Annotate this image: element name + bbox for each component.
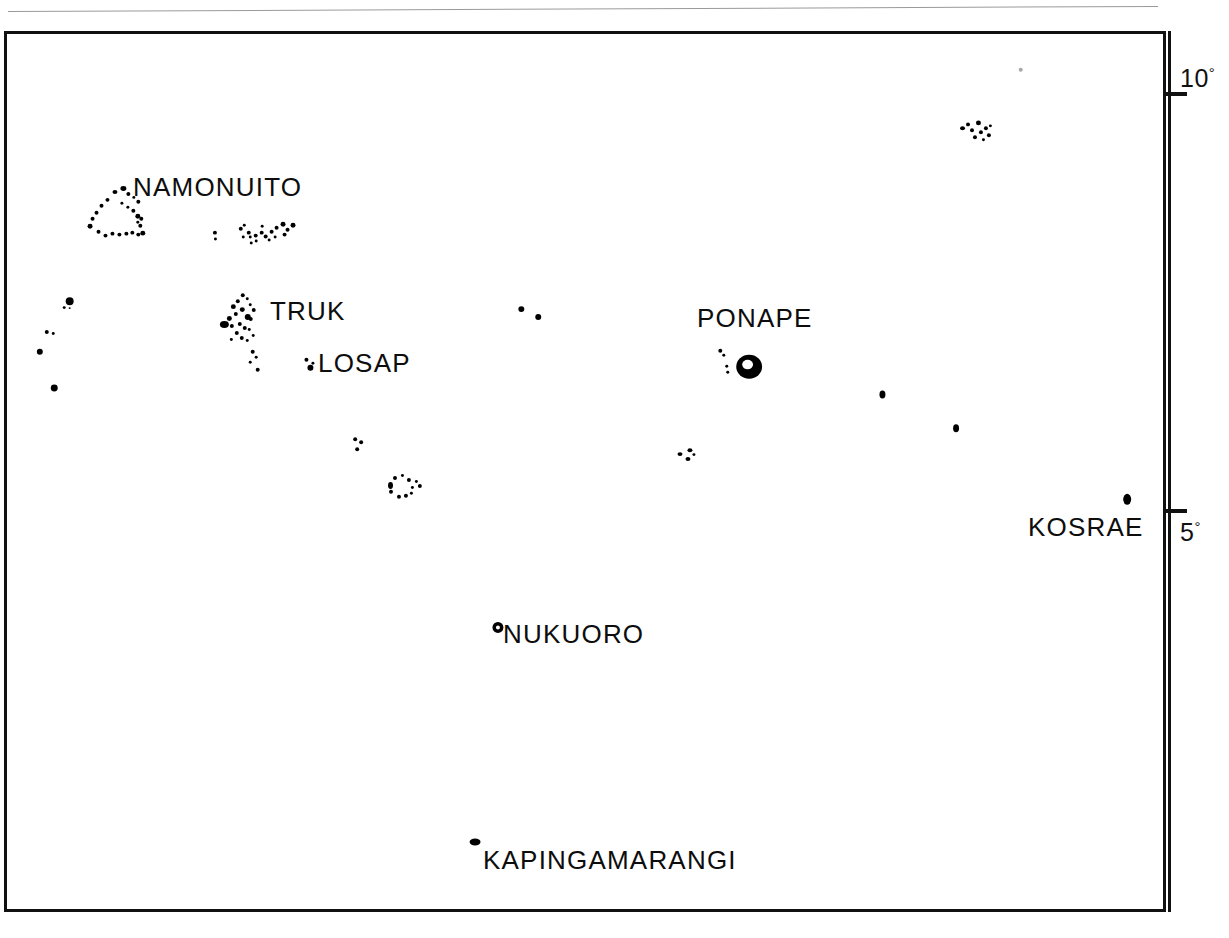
island-dot — [243, 224, 246, 227]
island-dot — [234, 312, 238, 316]
island-dot — [535, 314, 541, 320]
island-west-outlier-c — [37, 349, 43, 355]
island-dot — [982, 138, 985, 141]
island-pakin-ant-group — [960, 120, 992, 141]
island-dot — [110, 232, 114, 236]
island-dot — [248, 328, 251, 331]
island-dot — [960, 126, 965, 130]
degree-symbol-icon: ° — [1209, 64, 1216, 81]
island-dot — [69, 307, 71, 309]
island-plot-layer — [7, 34, 1163, 909]
island-dot — [987, 133, 991, 137]
island-dot — [281, 222, 286, 227]
island-label-ponape: PONAPE — [697, 303, 813, 334]
island-dot — [953, 424, 959, 432]
island-dot — [88, 224, 93, 229]
island-dot — [304, 358, 308, 362]
map-page: 10° 5° NAMONUITO TRUK LOSAP PONAPE KOSRA… — [0, 0, 1229, 938]
island-dot — [725, 365, 728, 368]
island-dot — [270, 230, 274, 234]
island-dot — [124, 232, 128, 236]
island-ponape-island — [718, 349, 762, 379]
island-dot — [63, 306, 66, 309]
island-dot — [255, 240, 258, 243]
island-etal-atoll — [353, 437, 363, 451]
island-satawan-atoll — [388, 474, 422, 499]
island-dot — [687, 448, 692, 452]
island-dot — [389, 490, 393, 494]
island-dot — [407, 478, 411, 482]
island-dot — [136, 233, 140, 237]
island-east-outlier-a — [879, 391, 885, 399]
island-dot — [404, 494, 408, 498]
island-dot — [1123, 494, 1131, 505]
island-dot — [131, 209, 135, 213]
island-dot — [355, 447, 359, 451]
island-dot — [236, 299, 240, 303]
island-dot — [970, 128, 974, 132]
latitude-label-5-value: 5 — [1180, 518, 1194, 546]
island-dot — [100, 204, 104, 208]
page-header-rule — [8, 6, 1158, 12]
island-dot — [255, 356, 258, 359]
latitude-axis-line — [1168, 31, 1171, 912]
island-dot — [1019, 68, 1023, 72]
island-dot — [247, 231, 251, 235]
island-faint-dot-north — [1019, 68, 1023, 72]
island-dot — [214, 238, 217, 241]
page-header-ghost-text — [540, 0, 1200, 6]
island-kapingamarangi-atoll — [470, 838, 481, 845]
island-dot — [260, 231, 264, 235]
island-dot — [136, 221, 139, 224]
island-dot — [311, 362, 314, 365]
island-dot — [97, 230, 101, 234]
island-dot — [718, 349, 722, 353]
island-dot — [291, 223, 296, 228]
island-west-outlier-b — [45, 330, 55, 335]
island-east-outlier-b — [953, 424, 959, 432]
island-dot — [246, 297, 249, 300]
island-dot — [249, 361, 252, 364]
island-west-outlier-d — [51, 385, 58, 392]
island-dot — [411, 486, 414, 489]
island-label-kapingamarangi: KAPINGAMARANGI — [483, 845, 737, 876]
island-dot — [879, 391, 885, 399]
island-dot — [246, 339, 249, 342]
island-dot — [388, 482, 393, 489]
island-dot — [401, 474, 404, 477]
latitude-label-5: 5° — [1180, 518, 1201, 547]
island-dot — [268, 239, 271, 242]
island-dot — [105, 198, 109, 202]
island-dot — [120, 186, 126, 191]
island-dot — [103, 234, 107, 238]
island-west-outlier-a — [63, 297, 74, 309]
island-dot — [227, 316, 232, 321]
island-dot — [213, 231, 217, 235]
island-dot — [251, 350, 255, 354]
island-central-outlier-pair — [518, 306, 541, 320]
island-dot — [45, 330, 49, 334]
island-dot — [240, 307, 245, 312]
island-dot — [117, 233, 121, 237]
island-dot — [242, 236, 245, 239]
island-dot — [112, 190, 117, 194]
island-dot — [52, 332, 55, 335]
island-dot — [989, 124, 992, 127]
island-label-losap: LOSAP — [318, 348, 411, 379]
island-dot — [95, 211, 99, 215]
island-dot — [976, 120, 981, 125]
island-dot — [254, 234, 258, 238]
island-dot — [37, 349, 43, 355]
island-dot — [692, 453, 695, 456]
island-dot — [685, 457, 690, 461]
island-dot — [470, 838, 481, 845]
island-label-truk: TRUK — [270, 296, 346, 327]
island-dot — [415, 480, 418, 483]
island-dot — [220, 321, 229, 328]
island-dot — [235, 331, 239, 335]
island-dot — [120, 202, 123, 205]
island-dot — [518, 306, 524, 312]
island-dot — [307, 365, 313, 371]
island-dot — [359, 440, 363, 444]
latitude-label-10: 10° — [1180, 64, 1215, 93]
